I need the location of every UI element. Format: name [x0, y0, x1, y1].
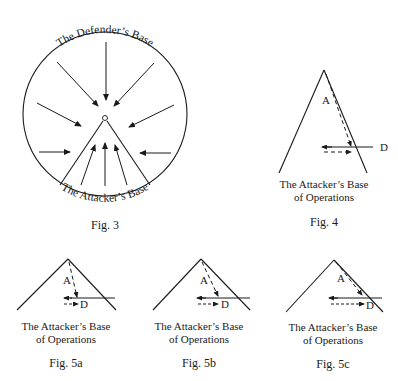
base-label-line1: The Attacker’s Base	[280, 178, 369, 190]
base-label-line1: The Attacker’s Base	[155, 320, 244, 332]
figure-4: A D The Attacker’s Base of Operations Fi…	[279, 70, 388, 229]
point-a-label: A	[322, 94, 330, 106]
triangle-left-side	[60, 121, 103, 185]
point-d-label: D	[380, 141, 388, 153]
fig5a-caption: Fig. 5a	[49, 356, 83, 370]
base-right-side	[68, 259, 116, 310]
fig3-caption: Fig. 3	[91, 218, 119, 232]
base-left-side	[17, 259, 68, 310]
point-a-label: A	[337, 272, 345, 284]
fig4-caption: Fig. 4	[310, 215, 338, 229]
figure-5c: A D The Attacker’s Base of Operations Fi…	[286, 260, 383, 371]
figure-5a: A D The Attacker’s Base of Operations Fi…	[17, 259, 116, 370]
base-left-side	[279, 70, 324, 173]
base-label-line2: of Operations	[303, 334, 363, 346]
figures-canvas: The Defender’s Base The Attacker’s Base …	[0, 0, 398, 381]
arrow-icon	[129, 105, 174, 127]
base-label-line2: of Operations	[294, 191, 354, 203]
point-d-label: D	[366, 299, 374, 311]
base-label-line1: The Attacker’s Base	[22, 320, 111, 332]
defender-arrows	[37, 42, 174, 153]
point-a-label: A	[200, 274, 208, 286]
defender-base-label: The Defender’s Base	[54, 23, 156, 49]
arrow-icon	[57, 62, 98, 106]
fig5b-caption: Fig. 5b	[182, 356, 216, 370]
base-label-line2: of Operations	[36, 333, 96, 345]
base-label-line1: The Attacker’s Base	[289, 321, 378, 333]
base-right-side	[324, 70, 367, 173]
point-d-label: D	[80, 298, 88, 310]
base-label-line2: of Operations	[169, 333, 229, 345]
figure-5b: A D The Attacker’s Base of Operations Fi…	[153, 259, 250, 370]
fig5c-caption: Fig. 5c	[316, 357, 349, 371]
attacker-arrows	[81, 143, 127, 186]
base-left-side	[286, 260, 334, 312]
figure-3: The Defender’s Base The Attacker’s Base …	[23, 23, 187, 232]
arrow-icon	[37, 103, 81, 126]
base-left-side	[153, 259, 201, 310]
arrow-icon	[115, 145, 127, 185]
objective-point-icon	[103, 116, 108, 121]
point-a-label: A	[63, 274, 71, 286]
point-d-label: D	[221, 298, 229, 310]
arrow-icon	[114, 63, 154, 106]
